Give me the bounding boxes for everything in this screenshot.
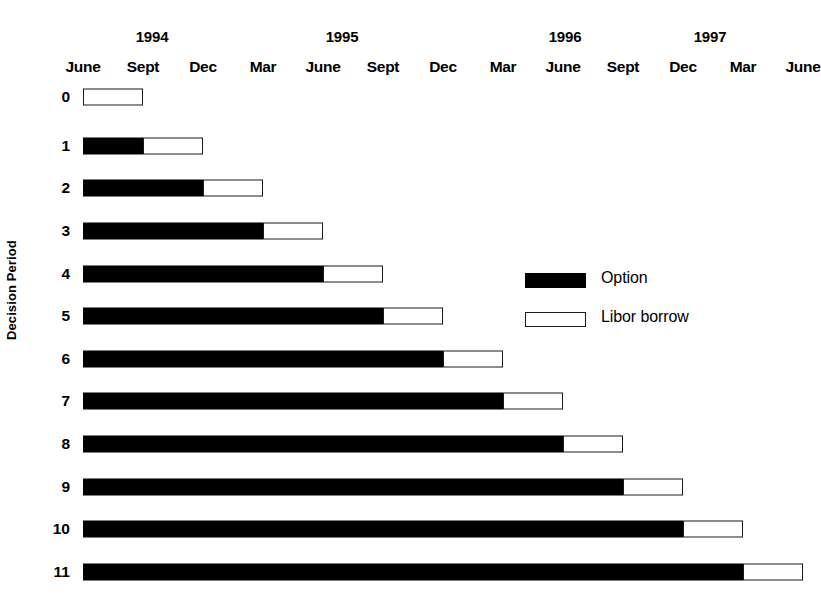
y-axis-tick-label: 3	[36, 222, 70, 240]
y-axis-tick-label: 4	[36, 265, 70, 283]
bar-row	[83, 308, 443, 325]
y-axis-tick-label: 1	[36, 137, 70, 155]
y-axis-tick-label: 10	[36, 520, 70, 538]
y-axis-tick-label: 2	[36, 179, 70, 197]
bar-segment-libor-borrow	[443, 351, 503, 368]
x-axis-tick-label: Dec	[189, 58, 217, 76]
x-axis-tick-label: June	[786, 58, 821, 76]
bar-row	[83, 564, 803, 581]
y-axis-tick-label: 9	[36, 478, 70, 496]
bar-row	[83, 479, 683, 496]
bar-segment-libor-borrow	[563, 436, 623, 453]
y-axis-title: Decision Period	[4, 240, 19, 340]
x-axis-tick-label: June	[306, 58, 341, 76]
x-axis-tick-label: June	[546, 58, 581, 76]
y-axis-tick-label: 6	[36, 350, 70, 368]
bar-segment-option	[83, 521, 683, 538]
year-label: 1996	[549, 28, 582, 45]
x-axis-tick-label: Dec	[429, 58, 457, 76]
x-axis-tick-label: Mar	[730, 58, 757, 76]
year-label: 1997	[694, 28, 727, 45]
bar-segment-libor-borrow	[743, 564, 803, 581]
year-label: 1995	[326, 28, 359, 45]
bar-row	[83, 266, 383, 283]
bar-segment-option	[83, 266, 323, 283]
x-axis-tick-label: Sept	[607, 58, 639, 76]
bar-row	[83, 436, 623, 453]
bar-segment-option	[83, 564, 743, 581]
bar-segment-option	[83, 393, 503, 410]
bar-segment-option	[83, 479, 623, 496]
bar-segment-libor-borrow	[323, 266, 383, 283]
legend-swatch-option	[525, 273, 586, 288]
x-axis-tick-label: Sept	[367, 58, 399, 76]
bar-row	[83, 223, 323, 240]
bar-segment-option	[83, 436, 563, 453]
bar-segment-libor-borrow	[83, 89, 143, 106]
bar-segment-option	[83, 351, 443, 368]
bar-segment-option	[83, 308, 383, 325]
bar-row	[83, 138, 203, 155]
x-axis-tick-label: Sept	[127, 58, 159, 76]
legend-label: Option	[601, 269, 648, 287]
bar-segment-libor-borrow	[683, 521, 743, 538]
legend-swatch-libor-borrow	[525, 312, 586, 327]
y-axis-tick-label: 8	[36, 435, 70, 453]
y-axis-tick-label: 0	[36, 88, 70, 106]
y-axis-tick-label: 11	[36, 563, 70, 581]
y-axis-tick-label: 7	[36, 392, 70, 410]
bar-segment-libor-borrow	[503, 393, 563, 410]
x-axis-tick-label: Mar	[250, 58, 277, 76]
bar-row	[83, 351, 503, 368]
bar-segment-libor-borrow	[143, 138, 203, 155]
bar-segment-libor-borrow	[263, 223, 323, 240]
bar-segment-option	[83, 138, 143, 155]
x-axis-tick-label: June	[66, 58, 101, 76]
bar-segment-libor-borrow	[623, 479, 683, 496]
x-axis-tick-label: Mar	[490, 58, 517, 76]
y-axis-tick-label: 5	[36, 307, 70, 325]
bar-segment-libor-borrow	[383, 308, 443, 325]
bar-segment-option	[83, 223, 263, 240]
bar-segment-option	[83, 180, 203, 197]
bar-row	[83, 521, 743, 538]
x-axis-tick-label: Dec	[669, 58, 697, 76]
bar-row	[83, 89, 143, 106]
year-label: 1994	[136, 28, 169, 45]
bar-row	[83, 393, 563, 410]
bar-row	[83, 180, 263, 197]
legend-label: Libor borrow	[601, 308, 689, 326]
bar-segment-libor-borrow	[203, 180, 263, 197]
